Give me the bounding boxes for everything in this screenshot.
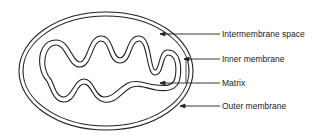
inner-membrane-outer-line (40, 36, 181, 102)
label-intermembrane-space: Intermembrane space (222, 29, 305, 39)
label-inner-membrane: Inner membrane (222, 54, 284, 64)
mitochondrion-diagram (0, 0, 325, 135)
label-outer-membrane: Outer membrane (222, 101, 286, 111)
outer-membrane-outer-line (19, 12, 193, 130)
label-matrix: Matrix (222, 78, 245, 88)
